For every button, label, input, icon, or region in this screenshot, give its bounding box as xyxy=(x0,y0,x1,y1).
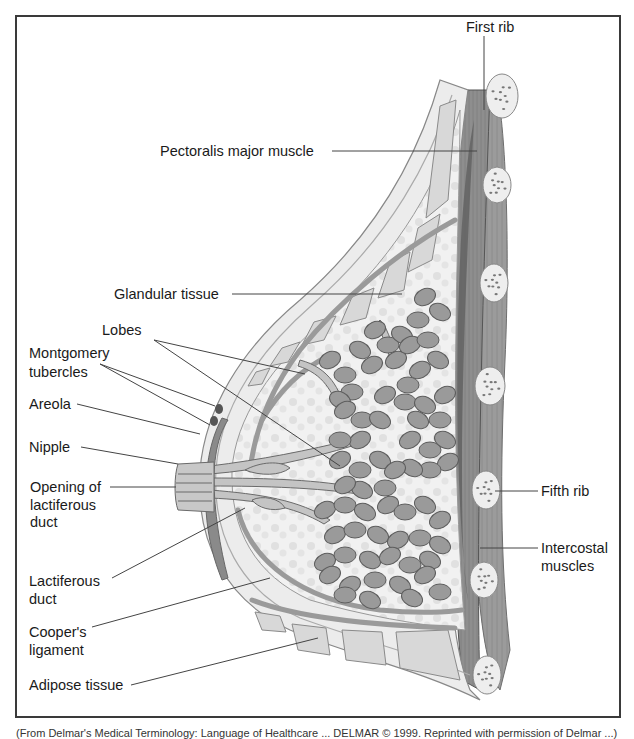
label-adipose-tissue: Adipose tissue xyxy=(29,677,123,693)
label-pectoralis-major-muscle: Pectoralis major muscle xyxy=(160,143,314,159)
lobule xyxy=(394,504,416,520)
label-glandular-tissue: Glandular tissue xyxy=(114,286,219,302)
lobule xyxy=(417,332,439,348)
label-nipple: Nipple xyxy=(29,439,70,455)
rib xyxy=(475,367,505,405)
lobule xyxy=(429,584,451,600)
figure-caption: (From Delmar's Medical Terminology: Lang… xyxy=(16,727,617,739)
label-intercostal-muscles-line2: muscles xyxy=(541,558,594,574)
rib xyxy=(486,74,518,118)
lobule xyxy=(394,394,416,410)
label-coopers-ligament-line1: Cooper's xyxy=(29,624,87,640)
lobule xyxy=(407,312,429,328)
rib xyxy=(472,471,500,509)
label-lactiferous-duct-line2: duct xyxy=(29,591,56,607)
rib xyxy=(470,562,498,598)
montgomery-tubercle xyxy=(215,404,223,414)
label-areola: Areola xyxy=(29,396,72,412)
label-coopers-ligament-line2: ligament xyxy=(29,642,84,658)
label-first-rib: First rib xyxy=(466,19,514,35)
rib xyxy=(473,656,501,694)
label-opening-line1: Opening of xyxy=(30,479,102,495)
lobule xyxy=(349,462,371,478)
lobule xyxy=(374,480,396,496)
lobule xyxy=(364,572,386,588)
lobule xyxy=(429,412,451,428)
montgomery-tubercle xyxy=(210,416,218,426)
lobule xyxy=(397,377,419,393)
label-opening-line3: duct xyxy=(30,514,57,530)
lobule xyxy=(409,530,431,546)
lobule xyxy=(334,547,356,563)
label-montgomery-tubercles-line2: tubercles xyxy=(29,364,88,380)
label-lobes: Lobes xyxy=(102,322,142,338)
lobule xyxy=(344,522,366,538)
label-fifth-rib: Fifth rib xyxy=(541,483,589,499)
lobule xyxy=(334,497,356,513)
lobule xyxy=(334,367,356,383)
lobule xyxy=(329,432,351,448)
label-lactiferous-duct-line1: Lactiferous xyxy=(29,573,100,589)
label-montgomery-tubercles-line1: Montgomery xyxy=(29,345,110,361)
label-intercostal-muscles-line1: Intercostal xyxy=(541,540,608,556)
lobule xyxy=(334,587,356,603)
label-opening-line2: lactiferous xyxy=(30,497,96,513)
rib xyxy=(483,167,511,203)
rib xyxy=(480,264,508,302)
nipple xyxy=(175,462,214,512)
